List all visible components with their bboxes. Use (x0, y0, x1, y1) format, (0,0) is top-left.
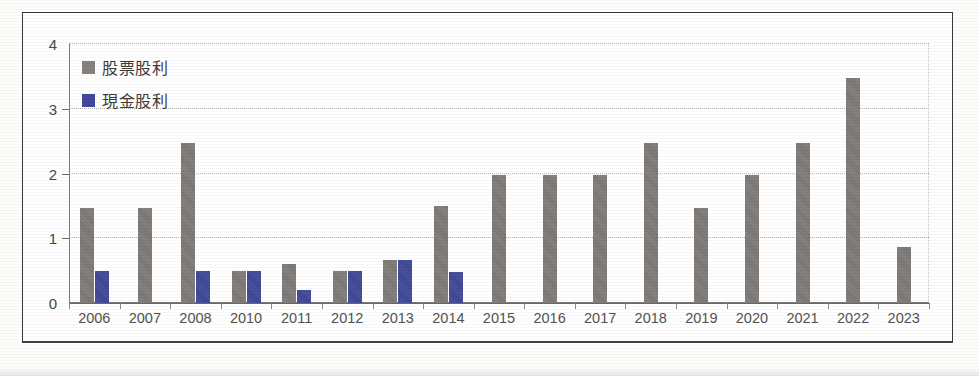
bar-stock-dividend-2018 (644, 143, 658, 303)
y-tick-mark-1 (62, 238, 70, 239)
bar-group-2020 (745, 44, 759, 303)
x-tick-label-2016: 2016 (533, 310, 565, 326)
chart-legend: 股票股利 現金股利 (82, 55, 168, 121)
x-tick-label-2008: 2008 (179, 310, 211, 326)
x-tick-label-2022: 2022 (837, 310, 869, 326)
stock-dividend-swatch-icon (82, 61, 95, 74)
bar-stock-dividend-2013 (383, 260, 397, 303)
x-tick-mark-2013 (373, 303, 374, 309)
bar-stock-dividend-2022 (846, 78, 860, 303)
scanned-page: 01234 2006200720082010201120122013201420… (0, 0, 979, 376)
bar-stock-dividend-2012 (333, 271, 347, 303)
legend-item-stock-dividend: 股票股利 (82, 55, 168, 79)
bar-group-2022 (846, 44, 860, 303)
y-tick-label-3: 3 (31, 100, 57, 117)
bar-stock-dividend-2021 (796, 143, 810, 303)
bar-cash-dividend-2006 (95, 271, 109, 303)
x-tick-label-2007: 2007 (129, 310, 161, 326)
x-tick-label-2012: 2012 (331, 310, 363, 326)
bar-group-2012 (333, 44, 362, 303)
y-tick-mark-3 (62, 109, 70, 110)
chart-frame: 01234 2006200720082010201120122013201420… (22, 12, 953, 342)
x-tick-label-2017: 2017 (584, 310, 616, 326)
plot-right-edge (928, 44, 929, 303)
y-tick-label-2: 2 (31, 165, 57, 182)
bar-group-2018 (644, 44, 658, 303)
bar-stock-dividend-2019 (694, 208, 708, 303)
y-tick-mark-2 (62, 174, 70, 175)
plot-area (69, 44, 929, 303)
x-tick-label-2021: 2021 (786, 310, 818, 326)
x-tick-label-2020: 2020 (736, 310, 768, 326)
cash-dividend-swatch-icon (82, 94, 95, 107)
x-tick-label-2013: 2013 (382, 310, 414, 326)
y-tick-label-1: 1 (31, 230, 57, 247)
y-tick-label-0: 0 (31, 295, 57, 312)
x-tick-label-2015: 2015 (483, 310, 515, 326)
x-tick-mark-2016 (524, 303, 525, 309)
bar-stock-dividend-2008 (181, 143, 195, 303)
bar-stock-dividend-2016 (543, 175, 557, 303)
page-edge-shadow (0, 368, 979, 376)
x-tick-mark-2012 (322, 303, 323, 309)
x-tick-mark-2020 (727, 303, 728, 309)
bar-stock-dividend-2015 (492, 175, 506, 303)
x-tick-mark-2014 (423, 303, 424, 309)
bar-stock-dividend-2006 (80, 208, 94, 303)
bar-stock-dividend-2023 (897, 247, 911, 303)
x-tick-mark-2007 (120, 303, 121, 309)
bar-group-2016 (543, 44, 557, 303)
x-tick-mark-2011 (271, 303, 272, 309)
x-tick-mark-2006 (69, 303, 70, 309)
x-tick-label-2023: 2023 (888, 310, 920, 326)
y-axis-labels: 01234 (23, 13, 57, 343)
bar-stock-dividend-2014 (434, 206, 448, 303)
x-tick-mark-2021 (777, 303, 778, 309)
bar-stock-dividend-2007 (138, 208, 152, 303)
bar-group-2023 (897, 44, 911, 303)
x-tick-label-2006: 2006 (78, 310, 110, 326)
x-tick-mark-2023 (878, 303, 879, 309)
bar-group-2019 (694, 44, 708, 303)
x-tick-mark-2008 (170, 303, 171, 309)
bar-group-2008 (181, 44, 210, 303)
x-tick-label-2014: 2014 (432, 310, 464, 326)
bar-group-2013 (383, 44, 412, 303)
bar-cash-dividend-2010 (247, 271, 261, 303)
legend-label-stock-dividend: 股票股利 (102, 55, 168, 79)
bar-cash-dividend-2008 (196, 271, 210, 303)
x-tick-label-2018: 2018 (635, 310, 667, 326)
x-tick-mark-2019 (676, 303, 677, 309)
x-axis-line (69, 303, 929, 304)
bar-stock-dividend-2011 (282, 264, 296, 303)
bar-group-2017 (593, 44, 607, 303)
x-tick-label-2010: 2010 (230, 310, 262, 326)
y-tick-label-4: 4 (31, 36, 57, 53)
bar-stock-dividend-2017 (593, 175, 607, 303)
x-tick-mark-2022 (828, 303, 829, 309)
x-tick-mark-2010 (221, 303, 222, 309)
bar-cash-dividend-2011 (297, 290, 311, 303)
bar-group-2011 (282, 44, 311, 303)
bar-stock-dividend-2020 (745, 175, 759, 303)
x-tick-label-2011: 2011 (281, 310, 312, 326)
x-tick-label-2019: 2019 (685, 310, 717, 326)
x-tick-mark-2017 (575, 303, 576, 309)
x-tick-mark-2018 (625, 303, 626, 309)
bar-cash-dividend-2013 (398, 260, 412, 303)
legend-label-cash-dividend: 現金股利 (102, 88, 168, 112)
x-tick-mark-2015 (474, 303, 475, 309)
legend-item-cash-dividend: 現金股利 (82, 88, 168, 112)
bar-group-2010 (232, 44, 261, 303)
bar-cash-dividend-2012 (348, 271, 362, 303)
bar-group-2014 (434, 44, 463, 303)
x-tick-mark-end (929, 303, 930, 309)
bar-cash-dividend-2014 (449, 272, 463, 303)
bar-group-2021 (796, 44, 810, 303)
bar-group-2015 (492, 44, 506, 303)
bar-stock-dividend-2010 (232, 271, 246, 303)
